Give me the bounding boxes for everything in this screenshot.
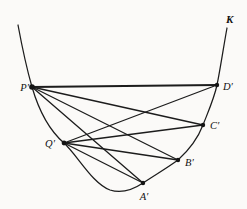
point-label-B: B′	[185, 157, 194, 168]
point-dot-D	[215, 83, 219, 87]
point-dot-C	[201, 123, 205, 127]
point-label-A: A′	[139, 191, 149, 202]
chord-P-D	[32, 85, 217, 87]
chord-P-C	[32, 87, 203, 125]
point-label-C: C′	[210, 120, 220, 131]
point-dot-A	[141, 181, 145, 185]
point-label-Q: Q′	[45, 138, 56, 149]
curve-k-path	[18, 25, 227, 191]
point-dot-P	[29, 84, 35, 90]
chord-Q-C	[64, 125, 203, 143]
point-label-P: P′	[19, 82, 29, 93]
geometry-figure: P′D′C′Q′B′A′K	[0, 0, 247, 209]
point-label-D: D′	[222, 81, 234, 92]
point-dot-B	[176, 158, 180, 162]
curve-k-label: K	[225, 13, 234, 25]
curve-svg: P′D′C′Q′B′A′K	[0, 0, 247, 209]
point-dot-Q	[62, 141, 67, 146]
